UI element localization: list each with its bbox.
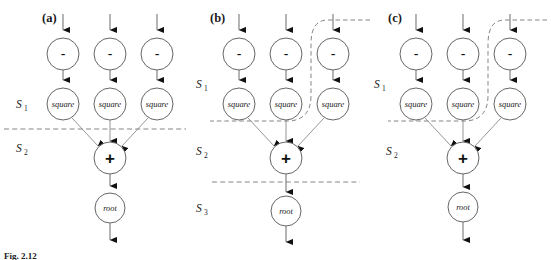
node-c-plus: + [447, 142, 479, 174]
node-c-square-3: square [494, 88, 526, 120]
region-label-b-s3: S 3 [196, 202, 208, 217]
node-label-square: square [275, 100, 298, 109]
figure-container: (a) - - - square square [0, 0, 551, 260]
region-s-subscript: 1 [382, 84, 386, 93]
node-a-minus-3: - [141, 38, 173, 70]
node-label-minus: - [461, 46, 466, 62]
node-c-square-2: square [447, 88, 479, 120]
node-b-plus: + [270, 142, 302, 174]
panel-a: (a) - - - square square [4, 11, 186, 240]
region-s-subscript: 1 [24, 104, 28, 113]
region-s-base: S [374, 78, 380, 90]
node-label-plus: + [105, 149, 115, 168]
node-label-plus: + [458, 149, 468, 168]
panel-c-label: (c) [388, 11, 402, 25]
node-label-minus: - [61, 46, 66, 62]
region-label-c-s1: S 1 [374, 78, 386, 93]
node-label-minus: - [155, 46, 160, 62]
node-label-square: square [52, 100, 75, 109]
node-a-square-2: square [94, 88, 126, 120]
node-label-root: root [103, 204, 117, 213]
node-label-minus: - [414, 46, 419, 62]
node-label-plus: + [281, 149, 291, 168]
node-b-minus-2: - [270, 38, 302, 70]
node-c-minus-2: - [447, 38, 479, 70]
edge-a-square3-plus [122, 118, 148, 146]
node-a-root: root [95, 193, 125, 223]
node-c-root: root [448, 192, 478, 222]
node-b-square-3: square [317, 88, 349, 120]
node-label-square: square [499, 100, 522, 109]
edge-c-square1-plus [425, 118, 451, 146]
node-label-minus: - [108, 46, 113, 62]
edge-b-square1-plus [248, 118, 274, 146]
edge-c-square3-plus [475, 118, 501, 146]
node-label-square: square [228, 100, 251, 109]
node-b-square-2: square [270, 88, 302, 120]
node-label-square: square [452, 100, 475, 109]
node-label-square: square [146, 100, 169, 109]
node-c-minus-1: - [400, 38, 432, 70]
node-label-minus: - [237, 46, 242, 62]
region-s-base: S [386, 145, 392, 157]
node-c-minus-3: - [494, 38, 526, 70]
node-a-square-3: square [141, 88, 173, 120]
node-label-square: square [99, 100, 122, 109]
node-a-minus-1: - [47, 38, 79, 70]
node-label-minus: - [331, 46, 336, 62]
panel-b: (b) - - - square square square [196, 11, 370, 242]
node-c-square-1: square [400, 88, 432, 120]
region-s-base: S [16, 98, 22, 110]
node-b-minus-3: - [317, 38, 349, 70]
region-s-base: S [196, 202, 202, 214]
figure-caption: Fig. 2.12 [4, 251, 37, 260]
region-s-base: S [16, 142, 22, 154]
node-b-minus-1: - [223, 38, 255, 70]
node-label-root: root [456, 203, 470, 212]
node-label-minus: - [284, 46, 289, 62]
node-a-plus: + [94, 142, 126, 174]
region-s-subscript: 3 [204, 208, 208, 217]
node-b-square-1: square [223, 88, 255, 120]
region-s-base: S [196, 78, 202, 90]
node-label-minus: - [508, 46, 513, 62]
region-s-subscript: 2 [394, 151, 398, 160]
edge-b-square3-plus [298, 118, 324, 146]
node-a-minus-2: - [94, 38, 126, 70]
node-label-square: square [322, 100, 345, 109]
node-label-square: square [405, 100, 428, 109]
panel-c: (c) - - - square square square [374, 11, 547, 240]
region-s-subscript: 2 [24, 148, 28, 157]
panel-b-label: (b) [210, 11, 225, 25]
node-a-square-1: square [47, 88, 79, 120]
region-label-b-s2: S 2 [196, 145, 208, 160]
edge-a-square1-plus [72, 118, 98, 146]
region-label-b-s1: S 1 [196, 78, 208, 93]
node-b-root: root [271, 196, 301, 226]
region-s-base: S [196, 145, 202, 157]
region-s-subscript: 1 [204, 84, 208, 93]
node-label-root: root [279, 207, 293, 216]
region-label-a-s1: S 1 [16, 98, 28, 113]
region-s-subscript: 2 [204, 151, 208, 160]
region-label-a-s2: S 2 [16, 142, 28, 157]
panel-a-label: (a) [42, 11, 57, 25]
dataflow-graph-figure: (a) - - - square square [0, 0, 551, 260]
region-label-c-s2: S 2 [386, 145, 398, 160]
